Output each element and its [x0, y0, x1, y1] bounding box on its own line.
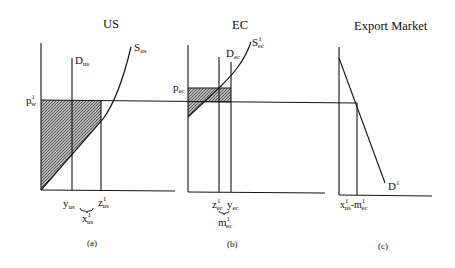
- ec-consumption-label: yec: [227, 198, 239, 212]
- export-quantity-axis: [339, 195, 432, 196]
- ec-imports-label: m1ec: [218, 215, 232, 230]
- diagram-svg: US Dus Sus p1w yus z1us x1us (a): [0, 0, 455, 268]
- export-demand-curve: [339, 58, 385, 183]
- panel-ec: EC S1ec Dec pec z1ec yec m1ec (b): [173, 18, 325, 249]
- export-market-title: Export Market: [354, 19, 428, 33]
- ec-price-label: pec: [173, 81, 185, 95]
- export-demand-label: D1: [388, 179, 400, 192]
- ec-shaded-area: [188, 88, 231, 117]
- ec-demand-label: Dec: [226, 47, 240, 61]
- export-caption: (c): [378, 241, 388, 251]
- panel-us: US Dus Sus p1w yus z1us x1us (a): [26, 17, 175, 248]
- export-quantity-label: x1us-m1ec: [340, 197, 368, 212]
- ec-production-label: z1ec: [212, 197, 223, 212]
- ec-quantity-axis: [188, 192, 325, 193]
- ec-caption: (b): [227, 239, 238, 249]
- us-exports-label: x1us: [82, 211, 94, 226]
- us-production-label: z1us: [98, 195, 109, 210]
- us-supply-label: Sus: [134, 41, 147, 55]
- us-shaded-area: [41, 100, 101, 190]
- ec-title: EC: [232, 18, 248, 32]
- us-caption: (a): [87, 238, 97, 248]
- us-demand-label: Dus: [75, 54, 89, 68]
- panel-export-market: Export Market D1 x1us-m1ec (c): [339, 19, 432, 251]
- ec-supply-label: S1ec: [252, 35, 264, 50]
- us-consumption-label: yus: [63, 197, 75, 211]
- us-title: US: [103, 17, 119, 31]
- world-price-label: p1w: [26, 93, 37, 108]
- trade-diagram: US Dus Sus p1w yus z1us x1us (a): [0, 0, 455, 268]
- us-quantity-axis: [41, 190, 175, 191]
